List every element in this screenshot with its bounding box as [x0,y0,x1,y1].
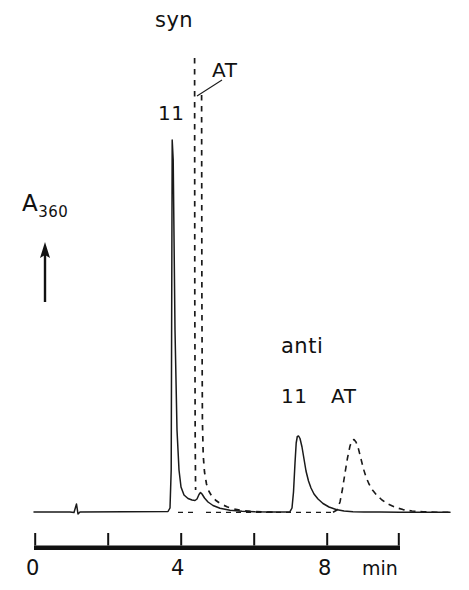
y-axis-title-subscript: 360 [38,203,68,221]
anti-at-peak-label: AT [331,384,356,408]
y-axis-title-main: A [22,190,38,216]
x-axis-bar [34,546,400,551]
syn-11-peak-label: 11 [158,101,184,125]
chromatogram-figure: syn AT 11 anti 11 AT A360 0 4 8 min [0,0,469,590]
at-leader-line [197,80,222,96]
syn-group-label: syn [155,8,193,32]
x-tick-label-8: 8 [318,556,331,580]
anti-group-label: anti [281,334,323,358]
x-tick-label-4: 4 [171,556,184,580]
anti-11-peak-label: 11 [281,384,307,408]
chromatogram-plot [0,0,469,590]
solid-trace-path [34,140,450,514]
x-tick-label-0: 0 [26,556,39,580]
dashed-trace-group [178,58,450,512]
dashed-at-syn-right-edge [202,95,275,512]
solid-trace-group [34,140,450,514]
y-axis-title: A360 [22,190,68,221]
x-axis-ticks [35,533,399,546]
syn-at-peak-label: AT [212,58,237,82]
dashed-at-anti-peak [333,440,450,513]
x-axis [34,533,400,550]
x-axis-unit-label: min [362,557,398,579]
y-axis-arrow-icon [40,242,50,302]
dashed-at-syn-left-edge [195,58,196,490]
